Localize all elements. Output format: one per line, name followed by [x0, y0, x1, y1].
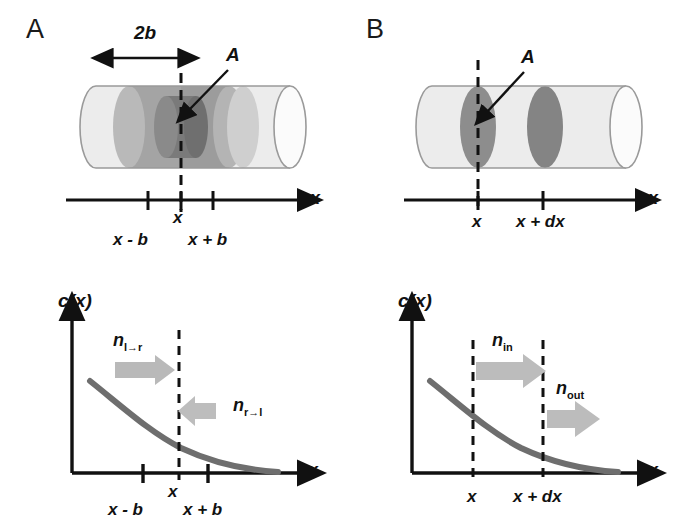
- panel-letter-b: B: [366, 14, 384, 45]
- chart-a-flux-label-lr: nl→r: [113, 330, 142, 353]
- panel-a-axis-label: x: [310, 188, 320, 209]
- figure-canvas: A B 2b A x x x - b x + b A x x x + dx c(…: [0, 0, 679, 523]
- panel-b-axis-label: x: [648, 188, 658, 209]
- flux-subscript-in: in: [503, 341, 513, 353]
- flux-subscript-lr: l→r: [124, 341, 142, 353]
- flux-subscript-rl: r→l: [244, 406, 262, 418]
- panel-a-tick-xplusb: x + b: [188, 230, 227, 250]
- chart-b-xlabel: x: [648, 460, 658, 481]
- chart-a-xlabel: x: [308, 460, 318, 481]
- diagram-svg: [0, 0, 679, 523]
- panel-b-chart-graphic: [412, 318, 640, 478]
- panel-b-tick-x: x: [472, 212, 481, 232]
- chart-a-tick-xplusb: x + b: [183, 500, 222, 520]
- chart-a-ylabel: c(x): [58, 290, 92, 312]
- chart-a-tick-xminusb: x - b: [108, 500, 143, 520]
- chart-a-flux-arrow-rl: [178, 396, 216, 426]
- panel-a-tick-xminusb: x - b: [113, 230, 148, 250]
- span-2b-label: 2b: [134, 22, 156, 44]
- panel-b-area-label: A: [521, 46, 535, 68]
- chart-a-tick-x: x: [168, 482, 177, 502]
- panel-a-area-label: A: [226, 44, 240, 66]
- flux-symbol-in: n: [492, 330, 503, 350]
- flux-symbol-rl: n: [233, 395, 244, 415]
- panel-b-tick-xplusdx: x + dx: [516, 212, 565, 232]
- chart-b-flux-label-out: nout: [556, 378, 584, 401]
- chart-a-flux-label-rl: nr→l: [233, 395, 262, 418]
- panel-b-cylinder-graphic: [404, 60, 642, 212]
- panel-a-chart-graphic: [72, 318, 300, 483]
- flux-symbol-out: n: [556, 378, 567, 398]
- panel-letter-a: A: [26, 14, 44, 45]
- chart-b-ylabel: c(x): [398, 290, 432, 312]
- chart-b-flux-arrow-in: [476, 354, 546, 388]
- chart-b-flux-label-in: nin: [492, 330, 513, 353]
- flux-subscript-out: out: [567, 389, 584, 401]
- chart-b-tick-x: x: [467, 487, 476, 507]
- flux-symbol-lr: n: [113, 330, 124, 350]
- chart-a-flux-arrow-lr: [115, 355, 175, 385]
- chart-b-curve: [430, 381, 618, 472]
- chart-b-flux-arrow-out: [547, 401, 600, 437]
- panel-a-tick-x: x: [173, 208, 182, 228]
- chart-b-tick-xplusdx: x + dx: [513, 487, 562, 507]
- panel-a-cylinder-graphic: [66, 56, 306, 212]
